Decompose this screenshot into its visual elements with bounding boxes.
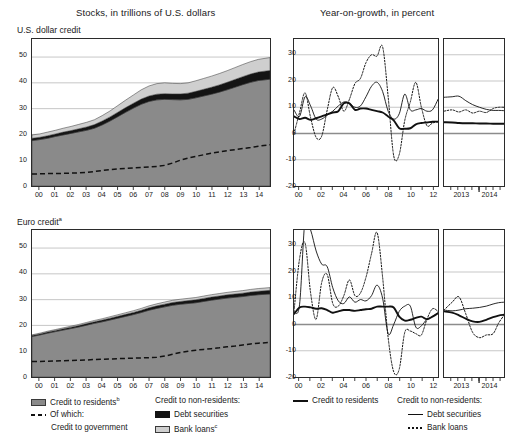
usd-stocks-xtick-14: 14 <box>250 191 268 199</box>
eur-growth-xtick-12: 12 <box>424 382 442 390</box>
usd-stocks-ytick-20: 20 <box>7 130 27 138</box>
usd-stocks-right-ytick--10: -10 <box>276 155 296 163</box>
usd-stocks-ytick-50: 50 <box>7 51 27 59</box>
left-column-title: Stocks, in trillions of U.S. dollars <box>76 7 215 18</box>
eur-stocks-right-ytick-10: 10 <box>276 293 296 301</box>
eur-growth-xtick-06: 06 <box>357 382 375 390</box>
eur-growth-xtick-02: 02 <box>312 382 330 390</box>
swatch-dashed-line-icon <box>31 414 46 416</box>
panel-title-eur-footnote: a <box>59 216 62 222</box>
chart-usd-growth-recent <box>443 38 505 187</box>
usd-stocks-ytick-40: 40 <box>7 77 27 85</box>
legend-right-residents-label: Credit to residents <box>312 396 378 405</box>
eur-growth-xtick-08: 08 <box>379 382 397 390</box>
eur-growth-xtick-00: 00 <box>290 382 308 390</box>
swatch-solid-thin-line-icon <box>408 414 423 415</box>
eur-stocks-ytick-50: 50 <box>7 242 27 250</box>
legend-left-debt-label: Debt securities <box>174 410 228 419</box>
usd-growth-xtick-06: 06 <box>357 191 375 199</box>
figure-root: Stocks, in trillions of U.S. dollars Yea… <box>0 0 512 448</box>
legend-left-loans: Bank loansc <box>155 423 217 434</box>
chart-eur-growth-recent <box>443 229 505 378</box>
legend-left-nonres-heading-label: Credit to non-residents: <box>155 396 240 405</box>
legend-left-ofwhich-2: Credit to government <box>51 423 127 432</box>
eur-stocks-right-ytick-20: 20 <box>276 267 296 275</box>
eur-stocks-ytick-20: 20 <box>7 321 27 329</box>
swatch-debt-securities-icon <box>155 411 170 418</box>
legend-right-debt: Debt securities <box>408 410 481 419</box>
legend-left-residents: Credit to residentsb <box>31 396 120 407</box>
tick-marks <box>31 378 271 381</box>
tick-marks <box>293 187 439 190</box>
legend-left-loans-footnote: c <box>215 423 218 429</box>
legend-left-residents-footnote: b <box>116 396 119 402</box>
panel-title-usd-text: U.S. dollar credit <box>17 25 81 35</box>
eur-growth-xtick-2013: 2013 <box>449 382 473 390</box>
chart-usd-growth <box>293 38 439 187</box>
panel-title-usd: U.S. dollar credit <box>17 25 81 35</box>
usd-growth-xtick-04: 04 <box>335 191 353 199</box>
swatch-dotted-line-icon <box>408 427 423 429</box>
eur-stocks-right-ytick-0: 0 <box>276 320 296 328</box>
usd-stocks-right-ytick-10: 10 <box>276 102 296 110</box>
swatch-solid-thick-line-icon <box>293 400 308 402</box>
legend-left-nonres-heading: Credit to non-residents: <box>155 396 240 405</box>
usd-stocks-right-ytick-20: 20 <box>276 76 296 84</box>
legend-left-ofwhich-2-label: Credit to government <box>51 423 127 432</box>
eur-stocks-xtick-14: 14 <box>250 382 268 390</box>
legend-left-ofwhich: Of which: <box>31 410 84 419</box>
eur-growth-xtick-04: 04 <box>335 382 353 390</box>
chart-eur-stocks <box>31 229 271 378</box>
usd-stocks-ytick-0: 0 <box>7 182 27 190</box>
usd-growth-xtick-10: 10 <box>402 191 420 199</box>
legend-right-debt-label: Debt securities <box>427 410 481 419</box>
eur-stocks-right-ytick--10: -10 <box>276 346 296 354</box>
legend-left-loans-label: Bank loans <box>174 425 215 434</box>
legend-right-nonres-heading: Credit to non-residents: <box>397 396 482 405</box>
eur-growth-xtick-10: 10 <box>402 382 420 390</box>
legend-left-debt: Debt securities <box>155 410 228 419</box>
eur-stocks-ytick-30: 30 <box>7 295 27 303</box>
legend-right-residents: Credit to residents <box>293 396 378 405</box>
tick-marks <box>293 378 439 381</box>
legend-right-loans-label: Bank loans <box>427 423 468 432</box>
eur-stocks-ytick-40: 40 <box>7 268 27 276</box>
eur-stocks-right-ytick-30: 30 <box>276 240 296 248</box>
legend-right-nonres-heading-label: Credit to non-residents: <box>397 396 482 405</box>
legend-left-residents-label: Credit to residents <box>50 398 116 407</box>
swatch-residents-icon <box>31 399 46 406</box>
eur-stocks-ytick-10: 10 <box>7 347 27 355</box>
panel-title-eur: Euro credita <box>17 216 62 227</box>
legend-left-ofwhich-label: Of which: <box>50 410 84 419</box>
panel-title-eur-text: Euro credit <box>17 217 59 227</box>
chart-usd-stocks <box>31 38 271 187</box>
eur-growth-xtick-2014: 2014 <box>478 382 502 390</box>
usd-growth-xtick-12: 12 <box>424 191 442 199</box>
usd-stocks-ytick-10: 10 <box>7 156 27 164</box>
usd-stocks-ytick-30: 30 <box>7 104 27 112</box>
eur-stocks-ytick-0: 0 <box>7 373 27 381</box>
usd-growth-xtick-00: 00 <box>290 191 308 199</box>
usd-growth-xtick-2014: 2014 <box>478 191 502 199</box>
usd-stocks-right-ytick-0: 0 <box>276 129 296 137</box>
swatch-bank-loans-icon <box>155 426 170 433</box>
tick-marks <box>31 187 271 190</box>
usd-growth-xtick-2013: 2013 <box>449 191 473 199</box>
right-column-title: Year-on-growth, in percent <box>320 7 434 18</box>
usd-growth-xtick-08: 08 <box>379 191 397 199</box>
legend-right-loans: Bank loans <box>408 423 468 432</box>
usd-growth-xtick-02: 02 <box>312 191 330 199</box>
usd-stocks-right-ytick-30: 30 <box>276 49 296 57</box>
chart-eur-growth <box>293 229 439 378</box>
